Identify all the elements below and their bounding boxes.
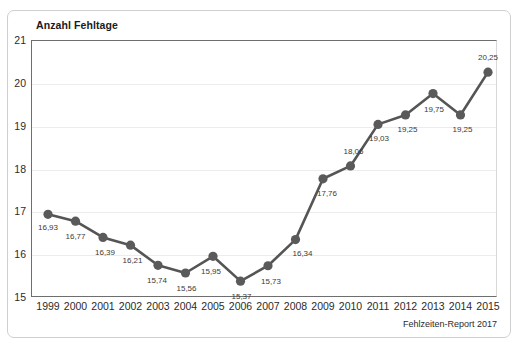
x-axis-tick-label: 2011 [367, 301, 390, 312]
data-value-label: 15,74 [147, 277, 167, 285]
x-axis-tick-label: 2008 [284, 301, 307, 312]
x-axis-tick-label: 2003 [146, 301, 169, 312]
gridline [32, 127, 496, 128]
gridline [32, 84, 496, 85]
y-axis-tick-label: 16 [14, 249, 26, 260]
x-axis-tick-label: 2002 [119, 301, 142, 312]
x-axis-tick-labels: 1999200020012002200320042005200620072008… [0, 301, 519, 317]
x-axis-tick-label: 2007 [256, 301, 279, 312]
x-axis-tick-label: 2006 [229, 301, 252, 312]
gridline [32, 212, 496, 213]
y-axis-tick-label: 19 [14, 121, 26, 132]
data-value-label: 16,34 [292, 250, 312, 258]
plot-area [31, 40, 497, 297]
x-axis-tick-label: 2013 [421, 301, 444, 312]
data-value-label: 17,76 [317, 190, 337, 198]
x-axis-tick-label: 2005 [201, 301, 224, 312]
x-axis-tick-label: 2000 [64, 301, 87, 312]
x-axis-tick-label: 2009 [311, 301, 334, 312]
data-value-label: 16,21 [122, 257, 142, 265]
data-value-label: 19,25 [397, 126, 417, 134]
x-axis-tick-label: 2015 [476, 301, 499, 312]
gridline [32, 170, 496, 171]
x-axis-tick-label: 2012 [394, 301, 417, 312]
data-value-label: 15,73 [261, 278, 281, 286]
data-value-label: 15,37 [231, 293, 251, 301]
chart-figure: Anzahl Fehltage 15161718192021 199920002… [0, 0, 519, 347]
data-value-label: 19,03 [369, 135, 389, 143]
data-value-label: 20,25 [478, 54, 498, 62]
data-value-label: 16,77 [65, 233, 85, 241]
data-value-label: 19,75 [424, 106, 444, 114]
y-axis-tick-labels: 15161718192021 [0, 0, 26, 347]
data-value-label: 15,56 [176, 285, 196, 293]
x-axis-tick-label: 2004 [174, 301, 197, 312]
x-axis-tick-label: 2001 [91, 301, 114, 312]
chart-title: Anzahl Fehltage [36, 19, 118, 31]
source-note: Fehlzeiten-Report 2017 [403, 319, 497, 329]
x-axis-tick-label: 1999 [36, 301, 59, 312]
data-value-label: 18,06 [343, 148, 363, 156]
data-value-label: 15,95 [201, 268, 221, 276]
y-axis-tick-label: 18 [14, 164, 26, 175]
y-axis-tick-label: 20 [14, 78, 26, 89]
data-value-label: 16,93 [38, 224, 58, 232]
x-axis-tick-label: 2010 [339, 301, 362, 312]
x-axis-tick-label: 2014 [449, 301, 472, 312]
y-axis-tick-label: 21 [14, 35, 26, 46]
data-value-label: 16,39 [95, 249, 115, 257]
y-axis-tick-label: 17 [14, 206, 26, 217]
data-value-label: 19,25 [452, 126, 472, 134]
